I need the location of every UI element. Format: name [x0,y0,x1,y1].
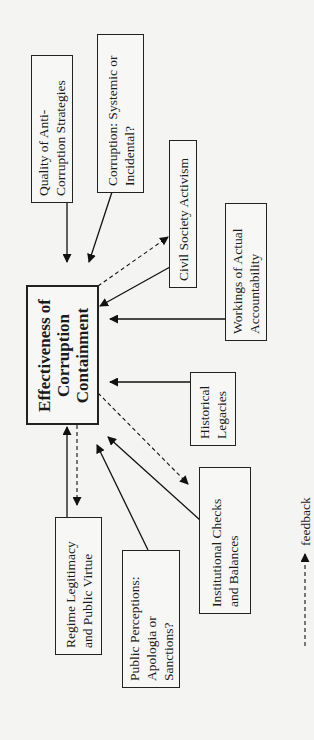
historical-line-1: Historical [196,386,213,439]
factor-civil: Civil Society Activism [169,140,197,288]
arrow-public [97,445,148,550]
public-line-2: Apologia or [143,616,160,681]
legend-label: feedback [296,486,314,546]
central-box: Effectiveness of Corruption Containment [26,285,99,425]
factor-historical: Historical Legacies [190,372,236,446]
arrow-systemic [89,192,112,262]
workings-line-2: Accountability [246,254,263,334]
central-line-2: Corruption [54,314,73,397]
central-line-3: Containment [73,308,92,403]
institutional-line-2: and Balances [225,535,242,607]
workings-line-1: Workings of Actual [229,229,246,334]
civil-line-1: Civil Society Activism [175,158,192,281]
factor-systemic: Corruption: Systemic or Incidental? [97,34,144,193]
factor-workings: Workings of Actual Accountability [225,203,267,341]
systemic-line-1: Corruption: Systemic or [104,56,121,187]
quality-line-2: Corruption Strategies [52,80,69,196]
historical-line-2: Legacies [213,391,230,439]
public-line-3: Sanctions? [160,623,177,682]
quality-line-1: Quality of Anti- [35,110,52,196]
factor-quality: Quality of Anti- Corruption Strategies [31,55,73,203]
public-line-1: Public Perceptions: [126,576,143,681]
feedback-civil [98,237,168,286]
factor-regime: Regime Legitimacy and Public Virtue [55,517,102,655]
central-line-1: Effectiveness of [35,299,54,412]
feedback-institutional [98,393,188,484]
systemic-line-2: Incidental? [121,126,138,186]
factor-public: Public Perceptions: Apologia or Sanction… [122,550,180,688]
institutional-line-1: Institutional Checks [208,499,225,607]
arrow-civil [100,267,170,306]
factor-institutional: Institutional Checks and Balances [199,467,251,614]
legend-feedback-text: feedback [297,497,314,546]
regime-line-2: and Public Virtue [79,554,96,648]
regime-line-1: Regime Legitimacy [62,541,79,648]
